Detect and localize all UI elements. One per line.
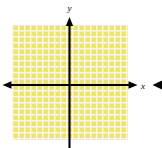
y-axis-label: y bbox=[67, 3, 72, 13]
figure-container: y x bbox=[0, 0, 162, 148]
x-axis-label: x bbox=[140, 81, 145, 91]
coordinate-plane-svg: y x bbox=[0, 0, 162, 148]
